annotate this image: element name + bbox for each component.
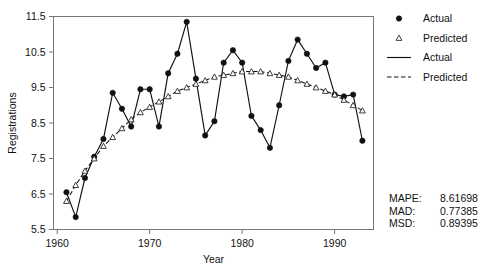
data-point-predicted [165,93,171,98]
y-axis-tick-label: 6.5 [31,188,46,200]
data-point-actual [239,60,244,65]
y-axis-tick-label: 10.5 [25,46,46,58]
data-point-actual [212,119,217,124]
data-point-predicted [286,74,292,79]
data-point-actual [64,190,69,195]
data-point-actual [73,214,78,219]
data-point-actual [147,87,152,92]
x-axis-title: Year [203,253,225,265]
legend-label-predicted-1: Predicted [423,32,468,44]
legend-marker-actual [396,16,401,21]
x-axis-tick-label: 1980 [230,237,254,249]
data-point-actual [82,175,87,180]
y-axis-title: Registrations [6,92,18,153]
data-point-actual [286,58,291,63]
data-point-predicted [147,104,153,109]
data-point-actual [360,138,365,143]
legend-label-actual-2: Actual [423,51,452,63]
data-point-actual [184,19,189,24]
data-point-actual [350,92,355,97]
legend-label-actual-0: Actual [423,12,452,24]
x-axis-tick-label: 1960 [46,237,70,249]
data-point-actual [175,51,180,56]
registrations-time-series-chart: 5.56.57.58.59.510.511.51960197019801990Y… [0,0,483,272]
data-point-actual [267,145,272,150]
stat-value-mad: 0.77385 [440,205,478,217]
y-axis-tick-label: 9.5 [31,81,46,93]
data-point-actual [295,37,300,42]
data-point-predicted [156,99,162,104]
data-point-actual [258,127,263,132]
y-axis-tick-label: 5.5 [31,223,46,235]
legend-label-predicted-3: Predicted [423,71,468,83]
data-point-actual [110,90,115,95]
data-point-predicted [110,134,116,139]
data-point-predicted [73,182,79,187]
data-point-actual [249,113,254,118]
x-axis-tick-label: 1970 [138,237,162,249]
data-point-actual [128,124,133,129]
x-axis-tick-label: 1990 [323,237,347,249]
data-point-actual [276,103,281,108]
data-point-actual [165,71,170,76]
stat-label-mape: MAPE: [389,192,422,204]
data-point-actual [221,60,226,65]
data-point-predicted [193,81,199,86]
data-point-actual [313,65,318,70]
stat-label-msd: MSD: [389,217,415,229]
y-axis-tick-label: 8.5 [31,117,46,129]
stat-value-mape: 8.61698 [440,192,478,204]
data-point-actual [230,48,235,53]
data-point-predicted [138,109,144,114]
legend-marker-predicted [396,35,402,40]
data-point-actual [101,136,106,141]
data-point-predicted [212,74,218,79]
stat-value-msd: 0.89395 [440,217,478,229]
data-point-actual [304,51,309,56]
data-point-actual [156,124,161,129]
data-point-actual [138,87,143,92]
data-point-actual [202,133,207,138]
y-axis-tick-label: 7.5 [31,152,46,164]
data-point-actual [323,60,328,65]
data-point-predicted [258,69,264,74]
data-point-predicted [304,81,310,86]
y-axis-tick-label: 11.5 [26,10,46,22]
chart-figure: 5.56.57.58.59.510.511.51960197019801990Y… [0,0,483,272]
data-point-actual [119,106,124,111]
data-point-predicted [360,108,366,113]
stat-label-mad: MAD: [389,205,415,217]
